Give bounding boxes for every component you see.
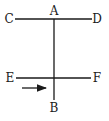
label-d: D bbox=[92, 12, 102, 26]
label-f: F bbox=[93, 71, 101, 85]
label-b: B bbox=[50, 101, 59, 115]
label-e: E bbox=[6, 71, 15, 85]
diagram-canvas: A C D E F B bbox=[0, 0, 109, 121]
label-a: A bbox=[49, 4, 59, 18]
label-c: C bbox=[4, 12, 13, 26]
diagram-svg: A C D E F B bbox=[0, 0, 109, 121]
